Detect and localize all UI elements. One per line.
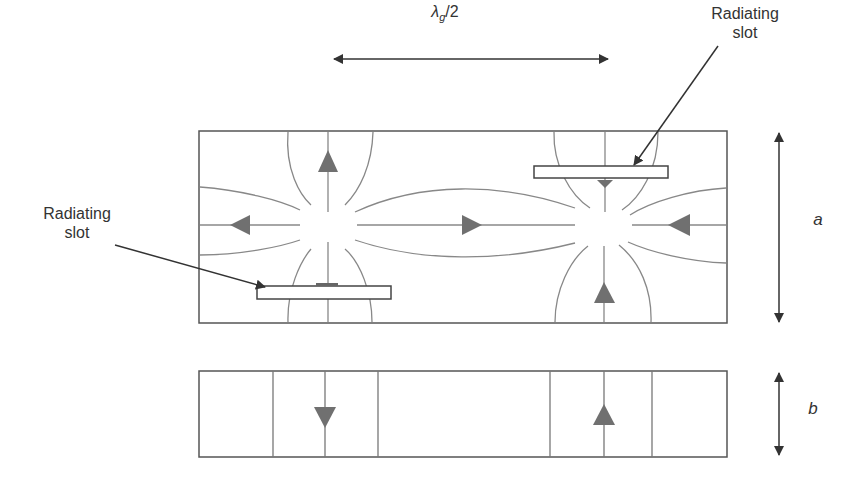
slot-pointer-left [115, 245, 265, 287]
arrow-up-icon [594, 282, 615, 303]
top-view-waveguide [199, 131, 727, 323]
radiating-slot-right [534, 166, 668, 178]
label-line-2: slot [22, 223, 132, 242]
dimension-a-label: a [808, 210, 828, 229]
side-view-outline [199, 371, 727, 457]
arrow-up-icon [318, 150, 338, 172]
side-view-waveguide [199, 371, 727, 457]
radiating-slot-left [257, 286, 391, 299]
slot-pointer-right [634, 46, 718, 165]
arrow-right-icon [462, 215, 482, 235]
half-wavelength-label: λg/2 [395, 2, 495, 27]
slot-left-mark [316, 283, 338, 286]
radiating-slot-label-right: Radiating slot [690, 4, 800, 42]
label-line-1: Radiating [690, 4, 800, 23]
arrow-left-icon [668, 214, 690, 236]
half-divisor: /2 [445, 3, 458, 20]
radiating-slot-label-left: Radiating slot [22, 204, 132, 242]
arrow-down-icon [597, 180, 613, 188]
dimension-b-label: b [803, 399, 823, 418]
field-lines-right [554, 132, 726, 322]
label-line-2: slot [690, 23, 800, 42]
label-line-1: Radiating [22, 204, 132, 223]
arrow-up-icon [593, 404, 615, 425]
arrow-left-icon [230, 215, 250, 235]
arrow-down-icon [314, 407, 336, 428]
lambda-g: λg [431, 3, 445, 20]
